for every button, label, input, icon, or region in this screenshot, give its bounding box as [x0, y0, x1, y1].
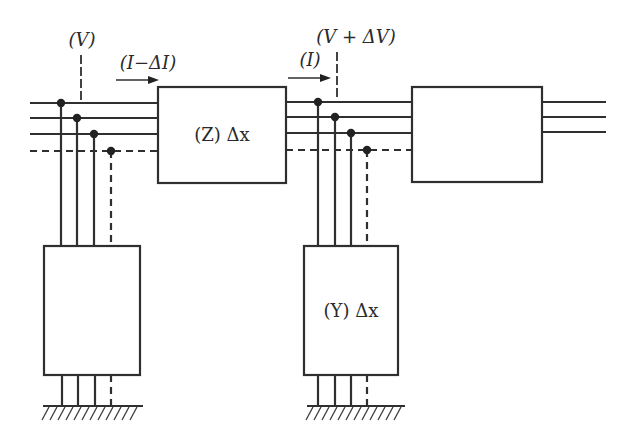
- series-block-label: (Z) Δx: [194, 124, 249, 145]
- ground-hatch-icon: [306, 407, 401, 420]
- junction-dot: [73, 114, 81, 122]
- junction-dot: [363, 146, 371, 154]
- shunt-block-label: (Y) Δx: [324, 300, 379, 321]
- junction-dot: [107, 147, 115, 155]
- current-label-right: (I): [299, 49, 320, 70]
- left-ground: [42, 375, 143, 420]
- left-taps: [57, 99, 115, 246]
- junction-dot: [331, 113, 339, 121]
- ground-hatch-icon: [42, 407, 137, 420]
- junction-dot: [90, 130, 98, 138]
- shunt-admittance-block-left: [44, 246, 140, 375]
- current-label-left: (I−ΔI): [120, 52, 176, 73]
- current-arrow-right: [288, 74, 331, 82]
- junction-dot: [57, 99, 65, 107]
- transmission-line-diagram: (Z) Δx (Y) Δx: [0, 0, 628, 446]
- right-bus: [542, 102, 606, 132]
- arrow-right-icon: [148, 76, 159, 84]
- arrow-right-icon: [320, 74, 331, 82]
- middle-ground: [306, 375, 405, 420]
- current-arrow-left: [116, 76, 159, 84]
- middle-bus: [286, 102, 412, 150]
- junction-dot: [314, 98, 322, 106]
- voltage-label-left: (V): [68, 29, 95, 50]
- junction-dot: [347, 129, 355, 137]
- next-section-block: [412, 87, 542, 182]
- middle-taps: [314, 98, 371, 246]
- voltage-label-right: (V + ΔV): [316, 26, 396, 47]
